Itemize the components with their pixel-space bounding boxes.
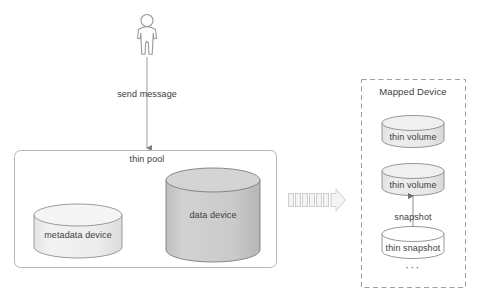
send-message-label: send message (117, 89, 177, 100)
data-device-label: data device (189, 210, 236, 221)
snapshot-relation-label: snapshot (394, 212, 431, 223)
thin-pool-label: thin pool (130, 154, 165, 165)
metadata-device-label: metadata device (44, 230, 112, 241)
mapped-device-title: Mapped Device (379, 86, 446, 97)
continuation-ellipsis: ··· (405, 262, 421, 273)
thin-volume-2-label: thin volume (389, 180, 436, 191)
thin-volume-1-label: thin volume (389, 132, 436, 143)
segmented-block-arrow-icon (289, 189, 346, 211)
user-actor-icon (138, 15, 157, 55)
thin-snapshot-label: thin snapshot (386, 243, 441, 254)
